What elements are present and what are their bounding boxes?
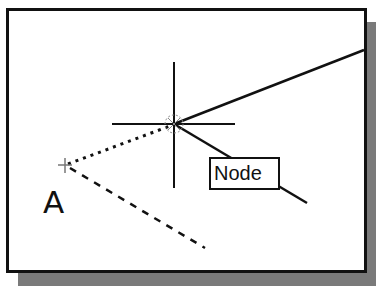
rubber-band-line — [68, 126, 170, 164]
line-segment-upper[interactable] — [174, 50, 364, 124]
dashed-line — [70, 168, 205, 248]
point-a-label: A — [43, 186, 64, 218]
drawing-canvas — [0, 0, 381, 301]
node-snap-tooltip: Node — [209, 157, 280, 190]
point-a-marker-icon — [58, 158, 72, 173]
